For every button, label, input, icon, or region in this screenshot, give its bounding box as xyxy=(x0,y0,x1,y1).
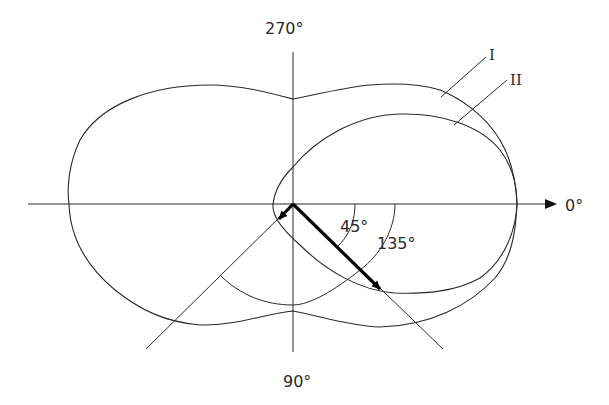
label-45: 45° xyxy=(340,217,368,236)
polar-diagram: 270° 0° 90° 45° 135° I II xyxy=(0,0,609,405)
leader-line-II xyxy=(454,80,507,125)
vector-short xyxy=(279,204,293,219)
label-135: 135° xyxy=(377,234,416,253)
axis-arrow-icon xyxy=(545,199,557,209)
label-curve-I: I xyxy=(489,46,495,64)
label-0: 0° xyxy=(565,196,583,215)
reference-line-135 xyxy=(146,204,293,349)
label-curve-II: II xyxy=(510,71,522,89)
label-90: 90° xyxy=(283,372,311,391)
leader-line-I xyxy=(441,57,486,97)
label-270: 270° xyxy=(265,19,304,38)
